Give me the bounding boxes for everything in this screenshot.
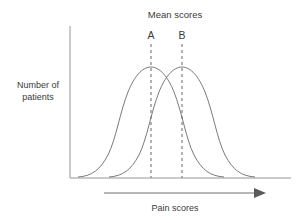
mean-label-b: B <box>178 29 185 41</box>
mean-label-a: A <box>147 29 154 41</box>
x-axis-arrow-head <box>254 188 266 198</box>
distribution-figure: Mean scores A B Number of patients Pain … <box>0 0 298 223</box>
figure-canvas: Mean scores A B Number of patients Pain … <box>0 0 298 223</box>
y-axis-label-line1: Number of <box>17 80 60 90</box>
figure-title: Mean scores <box>148 9 203 20</box>
y-axis-label-line2: patients <box>22 92 54 102</box>
x-axis-label: Pain scores <box>151 203 199 213</box>
